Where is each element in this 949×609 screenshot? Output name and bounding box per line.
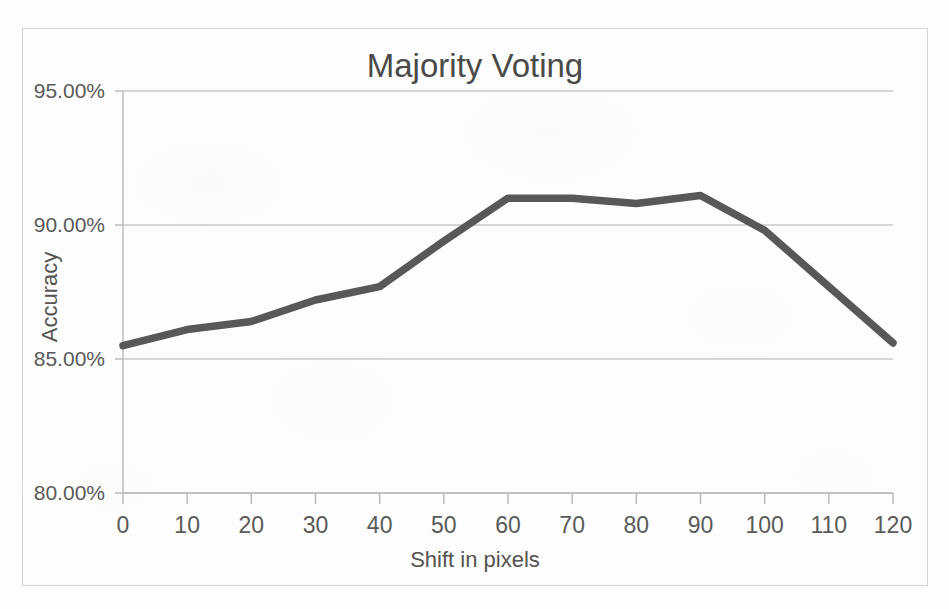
x-axis-tick-label: 110: [810, 512, 847, 538]
x-axis-tick-label: 100: [745, 512, 783, 538]
y-axis-tick-label: 90.00%: [34, 213, 105, 236]
chart-frame: 95.00%90.00%85.00%80.00% 010203040506070…: [22, 28, 928, 586]
chart-title: Majority Voting: [367, 47, 583, 84]
x-axis-tick-label: 120: [874, 512, 912, 538]
x-axis-tick-label: 10: [174, 512, 200, 538]
gridlines-group: [123, 91, 893, 493]
x-axis-tick-label: 80: [624, 512, 650, 538]
x-axis-tick-label: 40: [367, 512, 393, 538]
x-axis-tick-label: 70: [559, 512, 585, 538]
y-axis-tick-label: 95.00%: [34, 79, 105, 102]
y-axis-title: Accuracy: [37, 252, 62, 342]
y-axis-ticks-group: [115, 91, 123, 493]
y-axis-tick-label: 80.00%: [34, 481, 105, 504]
x-axis-tick-label: 30: [303, 512, 329, 538]
x-axis-ticks-group: [123, 493, 893, 504]
x-axis-tick-labels-group: 0102030405060708090100110120: [117, 512, 913, 538]
x-axis-tick-label: 0: [117, 512, 130, 538]
x-axis-tick-label: 60: [495, 512, 521, 538]
chart-canvas: 95.00%90.00%85.00%80.00% 010203040506070…: [23, 29, 927, 585]
x-axis-tick-label: 20: [239, 512, 265, 538]
chart-page: 95.00%90.00%85.00%80.00% 010203040506070…: [0, 0, 949, 609]
x-axis-tick-label: 50: [431, 512, 457, 538]
x-axis-title: Shift in pixels: [410, 547, 540, 572]
x-axis-tick-label: 90: [688, 512, 714, 538]
accuracy-series-line: [123, 196, 893, 346]
y-axis-tick-label: 85.00%: [34, 347, 105, 370]
